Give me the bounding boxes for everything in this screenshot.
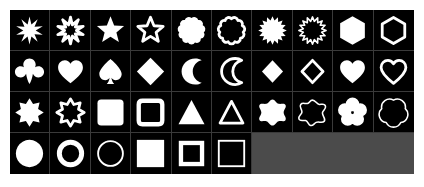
shape-cell-star-5-point-outline[interactable]	[131, 10, 171, 51]
flower-5-petal-outline-icon	[378, 97, 409, 128]
shape-cell-star-10-point-outline[interactable]	[50, 10, 90, 51]
empty-slot	[252, 133, 292, 174]
rounded-square-filled-icon	[95, 97, 126, 128]
shape-cell-crescent-moon-outline[interactable]	[212, 51, 252, 92]
shape-cell-triangle-filled[interactable]	[172, 92, 212, 133]
shape-cell-flower-5-petal-outline[interactable]	[374, 92, 414, 133]
star-8-point-outline-icon	[55, 97, 86, 128]
shape-cell-club-filled[interactable]	[10, 51, 50, 92]
shape-cell-circle-ring-thick[interactable]	[50, 133, 90, 174]
diamond-small-outline-icon	[297, 56, 328, 87]
star-5-point-filled-icon	[95, 15, 126, 46]
shape-grid[interactable]: "/>	[10, 10, 414, 174]
square-filled-icon	[135, 138, 166, 169]
shape-cell-square-ring-thick[interactable]	[172, 133, 212, 174]
heart-round-outline-icon	[378, 56, 409, 87]
sunburst-filled-icon	[257, 15, 288, 46]
sunburst-outline-icon	[297, 15, 328, 46]
club-filled-icon	[14, 56, 45, 87]
shape-cell-scalloped-circle-outline[interactable]	[212, 10, 252, 51]
crescent-moon-outline-icon	[216, 56, 247, 87]
diamond-large-filled-icon	[135, 56, 166, 87]
shape-palette-window: "/>	[0, 0, 424, 187]
shape-cell-rounded-square-outline[interactable]	[131, 92, 171, 133]
scalloped-circle-outline-icon	[216, 15, 247, 46]
shape-cell-hexagon-outline[interactable]	[374, 10, 414, 51]
flower-5-petal-filled-icon: "/>	[337, 97, 368, 128]
shape-cell-circle-filled[interactable]	[10, 133, 50, 174]
star-8-point-filled-icon	[14, 97, 45, 128]
circle-filled-icon	[14, 138, 45, 169]
shape-cell-hexagon-filled[interactable]	[333, 10, 373, 51]
star-10-point-filled-icon	[14, 15, 45, 46]
splat-star-outline-icon	[297, 97, 328, 128]
empty-slot	[374, 133, 414, 174]
shape-cell-triangle-outline[interactable]	[212, 92, 252, 133]
square-ring-thin-icon	[216, 138, 247, 169]
shape-cell-splat-star-filled[interactable]	[252, 92, 292, 133]
shape-cell-diamond-small-outline[interactable]	[293, 51, 333, 92]
shape-cell-rounded-square-filled[interactable]	[91, 92, 131, 133]
shape-cell-splat-star-outline[interactable]	[293, 92, 333, 133]
shape-cell-scalloped-circle-filled[interactable]	[172, 10, 212, 51]
shape-cell-square-filled[interactable]	[131, 133, 171, 174]
shape-cell-heart-round-filled[interactable]	[333, 51, 373, 92]
shape-cell-square-ring-thin[interactable]	[212, 133, 252, 174]
empty-slot	[333, 133, 373, 174]
shape-cell-diamond-small-filled[interactable]	[252, 51, 292, 92]
splat-star-filled-icon	[257, 97, 288, 128]
shape-cell-sunburst-outline[interactable]	[293, 10, 333, 51]
heart-round-filled-icon	[337, 56, 368, 87]
shape-cell-spade-filled[interactable]	[91, 51, 131, 92]
circle-ring-thin-icon	[95, 138, 126, 169]
circle-ring-thick-icon	[55, 138, 86, 169]
hexagon-filled-icon	[337, 15, 368, 46]
shape-cell-star-8-point-filled[interactable]	[10, 92, 50, 133]
triangle-filled-icon	[176, 97, 207, 128]
shape-cell-heart-filled[interactable]	[50, 51, 90, 92]
star-5-point-outline-icon	[135, 15, 166, 46]
shape-cell-crescent-moon-filled[interactable]	[172, 51, 212, 92]
shape-cell-star-8-point-outline[interactable]	[50, 92, 90, 133]
rounded-square-outline-icon	[135, 97, 166, 128]
hexagon-outline-icon	[378, 15, 409, 46]
scalloped-circle-filled-icon	[176, 15, 207, 46]
shape-cell-diamond-large-filled[interactable]	[131, 51, 171, 92]
spade-filled-icon	[95, 56, 126, 87]
empty-slot	[293, 133, 333, 174]
shape-cell-circle-ring-thin[interactable]	[91, 133, 131, 174]
shape-cell-star-10-point-filled[interactable]	[10, 10, 50, 51]
crescent-moon-filled-icon	[176, 56, 207, 87]
shape-cell-heart-round-outline[interactable]	[374, 51, 414, 92]
star-10-point-outline-icon	[55, 15, 86, 46]
shape-cell-sunburst-filled[interactable]	[252, 10, 292, 51]
diamond-small-filled-icon	[257, 56, 288, 87]
triangle-outline-icon	[216, 97, 247, 128]
shape-cell-star-5-point-filled[interactable]	[91, 10, 131, 51]
heart-filled-icon	[55, 56, 86, 87]
square-ring-thick-icon	[176, 138, 207, 169]
shape-cell-flower-5-petal-filled[interactable]: "/>	[333, 92, 373, 133]
